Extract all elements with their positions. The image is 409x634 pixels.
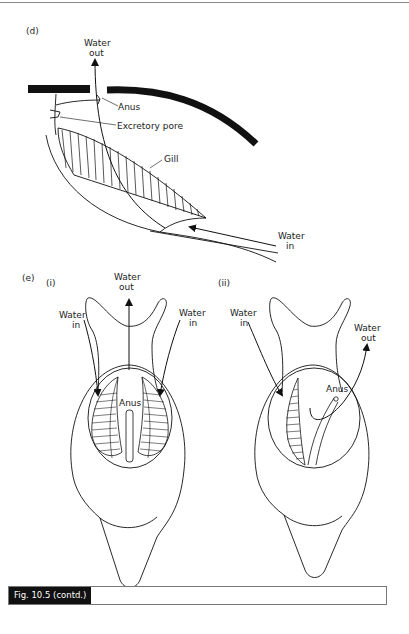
water-in-label-d-line1: Water	[278, 231, 305, 241]
water-out-label-ei-line2: out	[119, 282, 134, 292]
anus-label-ei: Anus	[119, 398, 142, 408]
figure-caption-label: Fig. 10.5 (contd.)	[9, 587, 91, 604]
water-out-label-eii-line2: out	[361, 333, 376, 343]
figure-caption-box: Fig. 10.5 (contd.)	[8, 586, 387, 605]
water-out-label-d-line1: Water	[84, 38, 111, 48]
water-out-label-eii-line1: Water	[354, 323, 381, 333]
shell-right-segment	[107, 90, 256, 144]
panel-e-label: (e)	[22, 273, 35, 283]
excretory-pore-label: Excretory pore	[117, 121, 183, 131]
panel-d: (d)	[26, 26, 305, 262]
anus-label-d: Anus	[118, 102, 141, 112]
water-in-left-label-line2: in	[72, 320, 80, 330]
panel-e-ii: (ii) Water	[218, 278, 381, 578]
water-in-left-label-line1: Water	[59, 310, 86, 320]
gill-d	[58, 128, 206, 218]
water-in-label-eii-line2: in	[240, 318, 248, 328]
water-in-right-label-line1: Water	[179, 308, 206, 318]
water-in-label-d-line2: in	[286, 241, 294, 251]
water-out-label-ei-line1: Water	[114, 272, 141, 282]
panel-d-label: (d)	[26, 26, 39, 36]
water-out-label-d-line2: out	[89, 48, 104, 58]
figure-page: (d)	[0, 0, 409, 634]
panel-e-i: (e) (i)	[22, 272, 206, 588]
water-in-label-eii-line1: Water	[230, 308, 257, 318]
sub-ii-label: (ii)	[218, 278, 230, 288]
water-in-right-label-line2: in	[189, 318, 197, 328]
figure-diagram: (d)	[0, 0, 409, 634]
anus-label-eii: Anus	[326, 384, 349, 394]
gill-label: Gill	[164, 154, 178, 164]
sub-i-label: (i)	[46, 278, 56, 288]
